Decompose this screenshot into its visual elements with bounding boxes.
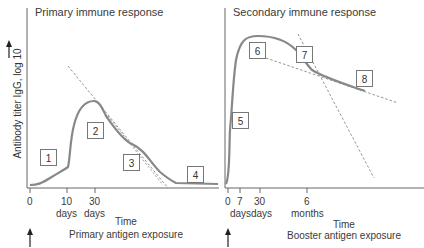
tick-30: 30 bbox=[89, 196, 100, 207]
primary-exposure-label: Primary antigen exposure bbox=[69, 229, 183, 240]
booster-exposure-label: Booster antigen exposure bbox=[287, 230, 401, 241]
y-axis-label: Antibody titer IgG, log 10 bbox=[12, 29, 23, 179]
left-tangent-line bbox=[68, 66, 168, 188]
tick-unit-months: months bbox=[291, 208, 324, 219]
phase-box-1: 1 bbox=[40, 149, 57, 166]
phase-box-8: 8 bbox=[356, 70, 373, 87]
tick-0: 0 bbox=[27, 196, 33, 207]
phase-box-2: 2 bbox=[87, 122, 104, 139]
tick-30-right: 30 bbox=[254, 196, 265, 207]
tick-unit-days: days bbox=[84, 208, 105, 219]
right-tangent-shallow bbox=[266, 58, 398, 103]
tick-0-right: 0 bbox=[225, 196, 231, 207]
tick-unit-days: days bbox=[56, 208, 77, 219]
tick-6-months: 6 bbox=[304, 196, 310, 207]
tick-unit-days: days bbox=[230, 208, 251, 219]
x-axis-label-right: Time bbox=[333, 219, 355, 230]
booster-exposure-arrow-icon bbox=[225, 228, 231, 247]
x-axis-label-left: Time bbox=[115, 216, 137, 227]
phase-box-3: 3 bbox=[123, 154, 140, 171]
primary-panel-title: Primary immune response bbox=[35, 7, 163, 18]
tick-7: 7 bbox=[237, 196, 243, 207]
phase-box-7: 7 bbox=[296, 46, 313, 63]
phase-box-5: 5 bbox=[232, 112, 249, 129]
primary-exposure-arrow-icon bbox=[27, 228, 33, 247]
phase-box-4: 4 bbox=[187, 166, 204, 183]
phase-box-6: 6 bbox=[249, 42, 266, 59]
tick-10: 10 bbox=[61, 196, 72, 207]
secondary-panel-title: Secondary immune response bbox=[233, 7, 376, 18]
tick-unit-days: days bbox=[251, 208, 272, 219]
